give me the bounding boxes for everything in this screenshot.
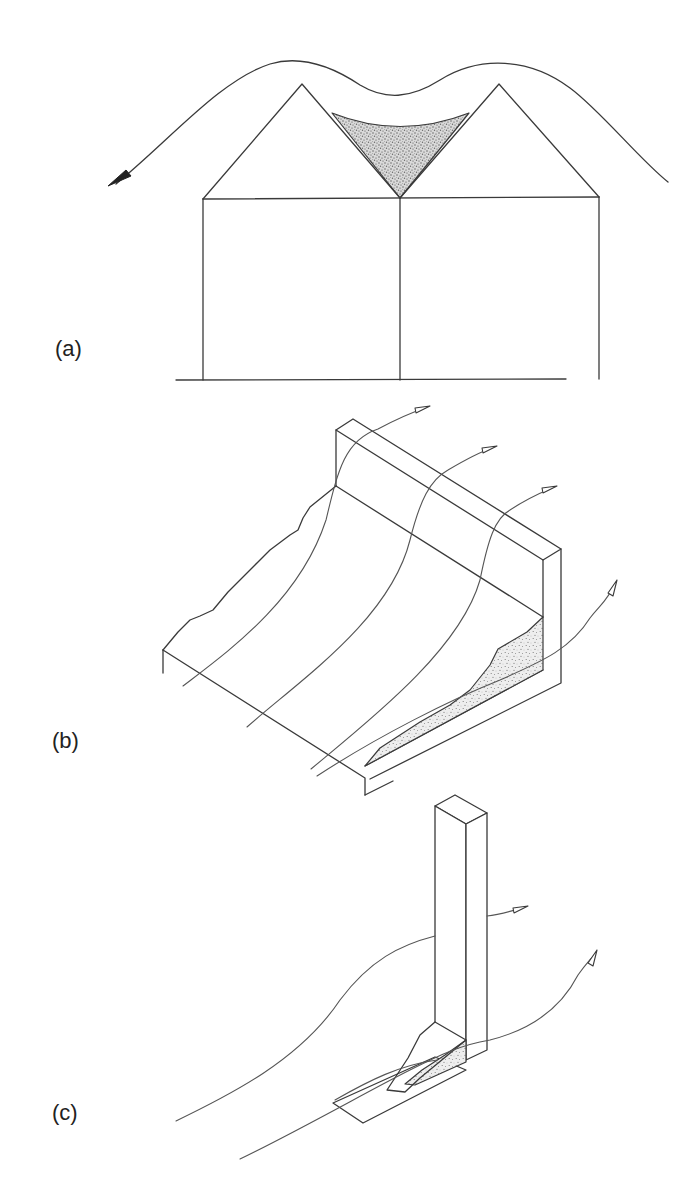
valley-drift bbox=[332, 113, 469, 198]
slab-front-edge bbox=[163, 650, 365, 795]
post-front-face bbox=[435, 806, 466, 1040]
open-arrowhead-icon bbox=[588, 950, 597, 966]
open-arrowhead-icon bbox=[542, 486, 557, 493]
ground-line bbox=[176, 379, 566, 380]
corner-drift bbox=[365, 617, 543, 766]
figure: (a) (b) (c) bbox=[0, 0, 691, 1191]
streamline-upper-exit bbox=[487, 910, 515, 916]
open-arrowhead-icon bbox=[608, 580, 617, 596]
solid-arrowhead-icon bbox=[108, 170, 131, 186]
panel-label-b: (b) bbox=[52, 730, 79, 752]
post-side-face bbox=[466, 813, 487, 1060]
open-arrowhead-icon bbox=[415, 406, 430, 413]
slab-bottom-stub bbox=[365, 781, 393, 795]
panel-a bbox=[108, 61, 668, 380]
slope-back-edge bbox=[163, 486, 336, 650]
streamline-lower bbox=[240, 955, 594, 1159]
open-arrowhead-icon bbox=[482, 446, 497, 453]
parapet-top-face bbox=[336, 419, 561, 560]
panel-label-a: (a) bbox=[55, 338, 82, 360]
figure-drawing bbox=[0, 0, 691, 1191]
panel-label-c: (c) bbox=[52, 1102, 78, 1124]
slope-wall-junction bbox=[336, 486, 543, 617]
open-arrowhead-icon bbox=[513, 906, 528, 913]
panel-b bbox=[163, 406, 617, 795]
panel-c bbox=[176, 795, 597, 1159]
